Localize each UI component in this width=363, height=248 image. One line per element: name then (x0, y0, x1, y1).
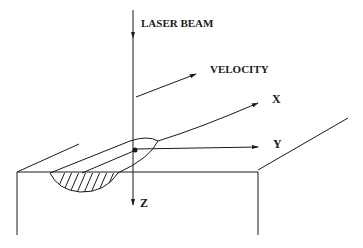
velocity-label: VELOCITY (210, 63, 269, 75)
melt-pool-outline (50, 138, 158, 192)
x-axis-arrow (158, 103, 258, 141)
origin-point (133, 148, 138, 153)
laser-welding-diagram: LASER BEAM VELOCITY X Y Z (0, 0, 363, 248)
velocity-arrow (136, 74, 196, 97)
y-axis-label: Y (273, 137, 282, 151)
workpiece-block (17, 118, 348, 235)
x-axis-label: X (272, 92, 281, 106)
z-axis-label: Z (140, 196, 148, 210)
laser-beam-label: LASER BEAM (141, 17, 214, 29)
